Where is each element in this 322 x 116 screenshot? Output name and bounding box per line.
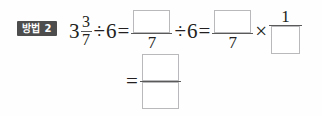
fraction-blank-over-7-second: 7: [212, 10, 253, 52]
equals-sign-result: =: [125, 71, 139, 92]
mixed-fraction-denominator: 7: [81, 32, 91, 49]
blank-box-numerator-2[interactable]: [214, 10, 251, 33]
multiply-sign: ×: [254, 21, 268, 42]
fraction-2-denominator: 7: [227, 34, 240, 52]
mixed-whole-part: 3: [69, 21, 80, 42]
mixed-fraction-numerator: 3: [81, 14, 91, 31]
equation-line-2: =: [125, 50, 182, 112]
equals-sign-2: =: [197, 21, 211, 42]
result-denominator-cell: [140, 82, 181, 109]
fraction-result-blank-over-blank: [140, 54, 181, 109]
worksheet-canvas: 방법 2 3 3 7 ÷ 6 = 7 ÷ 6 =: [0, 0, 322, 116]
equation-line-1: 3 3 7 ÷ 6 = 7 ÷ 6 = 7: [69, 0, 303, 62]
fraction-blank-over-7-first: 7: [131, 10, 172, 52]
equals-sign-1: =: [117, 21, 131, 42]
blank-box-numerator-1[interactable]: [133, 10, 170, 33]
fraction-3-denominator-cell: [269, 26, 302, 54]
blank-box-result-numerator[interactable]: [142, 54, 179, 81]
result-numerator-cell: [140, 54, 181, 81]
mixed-number-3-3-7: 3 3 7: [69, 14, 93, 49]
blank-box-result-denominator[interactable]: [142, 82, 179, 109]
divisor-2: 6: [187, 21, 198, 42]
blank-box-denominator-3[interactable]: [271, 26, 300, 54]
divisor-1: 6: [106, 21, 117, 42]
divide-sign-2: ÷: [173, 21, 187, 42]
method-badge: 방법 2: [17, 21, 57, 36]
fraction-1-numerator-cell: [131, 10, 172, 33]
fraction-2-numerator-cell: [212, 10, 253, 33]
fraction-one-over-blank: 1: [269, 8, 302, 55]
fraction-3-numerator: 1: [279, 8, 292, 26]
mixed-fraction-part: 3 7: [81, 14, 92, 49]
divide-sign-1: ÷: [93, 21, 107, 42]
